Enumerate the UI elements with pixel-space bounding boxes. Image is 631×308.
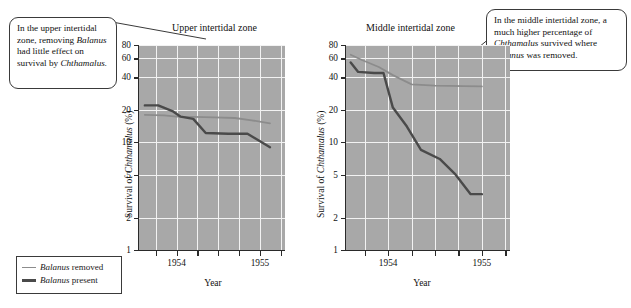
y-tick (134, 250, 138, 251)
x-tick-label: 1955 (473, 258, 492, 268)
x-tick (388, 251, 389, 256)
legend-item-balanus-present: Balanus present (22, 274, 116, 287)
y-tick (134, 110, 138, 111)
chart-title-upper: Upper intertidal zone (172, 22, 257, 33)
y-tick-label: 5 (314, 170, 338, 180)
y-tick (134, 45, 138, 46)
x-axis-title-middle: Year (413, 278, 431, 288)
series-line-balanus-removed (351, 55, 482, 87)
x-tick (458, 251, 459, 256)
chart-title-middle: Middle intertidal zone (366, 22, 455, 33)
y-tick (341, 110, 345, 111)
plot-area-middle-intertidal-zone (346, 45, 510, 250)
y-tick-label: 40 (107, 72, 131, 82)
y-tick (341, 218, 345, 219)
x-tick (505, 251, 506, 256)
legend-swatch-removed-icon (22, 267, 36, 269)
x-tick-label: 1955 (251, 258, 270, 268)
y-tick (134, 218, 138, 219)
y-axis-title-middle: Survival of Chthamalus (%) (316, 111, 326, 218)
x-tick (412, 251, 413, 256)
y-tick (341, 142, 345, 143)
x-axis-line (138, 250, 285, 251)
y-tick (341, 77, 345, 78)
x-tick (435, 251, 436, 256)
y-tick-label: 20 (314, 105, 338, 115)
x-tick (239, 251, 240, 256)
series-line-balanus-present (145, 105, 270, 147)
y-tick (134, 175, 138, 176)
y-tick (134, 77, 138, 78)
legend-label-removed: Balanus removed (40, 261, 103, 274)
y-tick (134, 58, 138, 59)
y-axis-line (138, 45, 139, 251)
y-tick (341, 250, 345, 251)
chart-panel-middle-intertidal: Middle intertidal zone Survival of Chtha… (300, 0, 631, 308)
legend: Balanus removed Balanus present (16, 256, 122, 294)
x-tick (177, 251, 178, 256)
y-tick-label: 1 (314, 245, 338, 255)
legend-item-balanus-removed: Balanus removed (22, 261, 116, 274)
x-tick (197, 251, 198, 256)
y-tick (341, 58, 345, 59)
x-tick (156, 251, 157, 256)
x-tick (260, 251, 261, 256)
y-tick-label: 60 (107, 53, 131, 63)
y-tick-label: 80 (107, 40, 131, 50)
x-tick-label: 1954 (379, 258, 398, 268)
y-tick-label: 2 (107, 213, 131, 223)
y-tick-label: 1 (107, 245, 131, 255)
x-tick (281, 251, 282, 256)
series-layer (139, 45, 285, 250)
plot-area-upper-intertidal-zone (139, 45, 285, 250)
x-axis-title-upper: Year (204, 278, 222, 288)
x-tick (218, 251, 219, 256)
y-tick-label: 2 (314, 213, 338, 223)
series-layer (346, 45, 510, 250)
x-tick (482, 251, 483, 256)
series-line-balanus-removed (145, 115, 270, 124)
x-tick-label: 1954 (167, 258, 186, 268)
x-tick (365, 251, 366, 256)
legend-swatch-present-icon (22, 279, 36, 282)
x-axis-line (345, 250, 510, 251)
series-line-balanus-present (351, 63, 482, 195)
y-tick-label: 60 (314, 53, 338, 63)
y-tick (134, 142, 138, 143)
legend-label-present: Balanus present (40, 274, 98, 287)
y-tick-label: 10 (107, 137, 131, 147)
y-tick-label: 40 (314, 72, 338, 82)
figure-root: In the upper intertidal zone, removing B… (0, 0, 631, 308)
y-axis-title-upper: Survival of Chthamalus (%) (124, 111, 134, 218)
y-axis-line (345, 45, 346, 251)
y-tick-label: 10 (314, 137, 338, 147)
y-tick-label: 80 (314, 40, 338, 50)
y-tick (341, 175, 345, 176)
y-tick-label: 20 (107, 105, 131, 115)
y-tick (341, 45, 345, 46)
y-tick-label: 5 (107, 170, 131, 180)
